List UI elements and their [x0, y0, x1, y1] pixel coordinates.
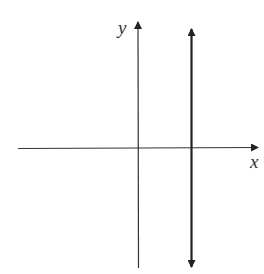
y-axis	[138, 22, 139, 268]
y-axis-label: y	[116, 17, 127, 38]
coordinate-plane: y x	[0, 0, 264, 274]
x-axis-label: x	[249, 151, 259, 172]
